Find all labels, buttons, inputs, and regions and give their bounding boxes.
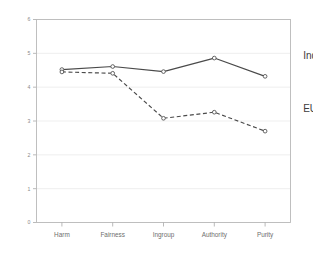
y-axis-tick-label: 0 [28, 219, 31, 225]
gridlines [37, 20, 291, 223]
series-label-eu: EU [303, 103, 313, 114]
chart-container: 0123456 HarmFairnessIngroupAuthorityPuri… [0, 0, 313, 258]
line-chart: 0123456 HarmFairnessIngroupAuthorityPuri… [0, 0, 313, 258]
series-inline-labels: IndienEU [303, 50, 313, 115]
data-point-marker [111, 65, 115, 69]
data-point-marker [162, 116, 166, 120]
data-point-marker [212, 110, 216, 114]
y-axis-tick-label: 6 [28, 16, 31, 22]
series-label-indien: Indien [303, 50, 313, 61]
y-axis-tick-label: 5 [28, 50, 31, 56]
data-point-marker [263, 129, 267, 133]
x-axis-tick-label: Ingroup [153, 231, 175, 239]
x-axis-tick-label: Purity [257, 231, 274, 239]
y-axis-tick-label: 2 [28, 152, 31, 158]
data-point-marker [111, 71, 115, 75]
y-axis-tick-label: 4 [28, 84, 31, 90]
data-point-marker [162, 70, 166, 74]
x-axis-tick-label: Harm [54, 231, 70, 238]
data-point-marker [60, 70, 64, 74]
x-axis-tick-label: Authority [202, 231, 228, 239]
y-axis-tick-label: 3 [28, 118, 31, 124]
data-point-marker [212, 56, 216, 60]
y-axis-tick-labels: 0123456 [28, 16, 31, 225]
data-point-marker [263, 74, 267, 78]
x-axis-ticks [62, 223, 265, 227]
series-line-eu [62, 72, 265, 131]
x-axis-tick-labels: HarmFairnessIngroupAuthorityPurity [54, 231, 274, 239]
y-axis-tick-label: 1 [28, 186, 31, 192]
y-axis-ticks [33, 20, 37, 223]
x-axis-tick-label: Fairness [100, 231, 125, 238]
